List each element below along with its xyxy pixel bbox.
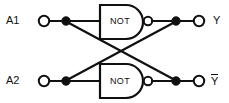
gate-top-inversion-bubble-icon	[144, 17, 152, 25]
input-label-a2: A2	[6, 75, 19, 86]
junction-dot-a1	[62, 17, 70, 25]
output-label-ybar: Y	[211, 74, 218, 87]
junction-dot-a2	[62, 77, 70, 85]
terminal-a1	[39, 16, 49, 26]
gate-bottom-inversion-bubble-icon	[144, 77, 152, 85]
junction-dot-ybar	[172, 77, 180, 85]
junction-dot-y	[172, 17, 180, 25]
output-label-y: Y	[213, 15, 220, 26]
terminal-y	[194, 16, 204, 26]
output-label-ybar-text: Y	[211, 74, 218, 87]
terminal-ybar	[194, 76, 204, 86]
gate-bottom-label: NOT	[110, 76, 130, 86]
input-label-a1: A1	[6, 15, 19, 26]
circuit-schematic: NOT NOT	[0, 0, 229, 103]
logic-diagram: NOT NOT A1 A2 Y Y	[0, 0, 229, 103]
gate-top-label: NOT	[110, 16, 130, 26]
terminal-a2	[39, 76, 49, 86]
